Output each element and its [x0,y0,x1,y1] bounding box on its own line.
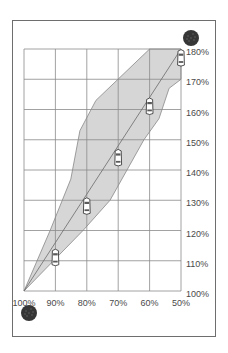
y-tick-label: 160% [186,108,209,118]
x-axis-labels: 100%90%80%70%60%50% [12,298,190,308]
x-tick-label: 80% [78,298,96,308]
chart: 100%90%80%70%60%50% 100%110%120%130%140%… [0,0,228,353]
y-tick-label: 130% [186,198,209,208]
y-tick-label: 100% [186,289,209,299]
x-tick-label: 90% [46,298,64,308]
y-tick-label: 140% [186,168,209,178]
car-icon [146,98,153,115]
dial-icon-bottom-left [21,305,37,321]
y-tick-label: 180% [186,47,209,57]
x-tick-label: 50% [172,298,190,308]
x-tick-label: 70% [109,298,127,308]
y-tick-label: 150% [186,138,209,148]
car-icon [178,50,185,67]
car-icon [52,249,59,266]
y-tick-label: 110% [186,259,208,269]
car-icon [83,198,90,215]
car-icon [115,149,122,166]
y-tick-label: 170% [186,77,209,87]
y-axis-labels: 100%110%120%130%140%150%160%170%180% [186,47,209,299]
x-tick-label: 60% [141,298,159,308]
dial-icon-top-right [183,30,199,46]
y-tick-label: 120% [186,229,209,239]
